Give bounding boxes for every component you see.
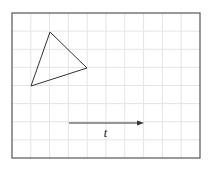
translation-diagram: t [0,0,210,170]
vector-label: t [104,126,108,140]
triangle-shape [31,32,87,86]
